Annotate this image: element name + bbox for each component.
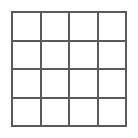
grid-cell[interactable] — [70, 99, 97, 126]
grid-cell[interactable] — [99, 42, 126, 69]
grid-cell[interactable] — [42, 42, 69, 69]
grid-cell[interactable] — [42, 13, 69, 40]
grid-cell[interactable] — [70, 13, 97, 40]
grid-cell[interactable] — [13, 42, 40, 69]
grid-cell[interactable] — [42, 99, 69, 126]
grid-cell[interactable] — [13, 70, 40, 97]
grid-cell[interactable] — [99, 99, 126, 126]
grid-cell[interactable] — [13, 13, 40, 40]
grid-cell[interactable] — [13, 99, 40, 126]
grid-table — [11, 11, 127, 127]
grid-cell[interactable] — [42, 70, 69, 97]
grid-cell[interactable] — [70, 70, 97, 97]
grid-cell[interactable] — [99, 70, 126, 97]
grid-cell[interactable] — [99, 13, 126, 40]
grid-canvas — [0, 0, 138, 138]
grid-cell[interactable] — [70, 42, 97, 69]
